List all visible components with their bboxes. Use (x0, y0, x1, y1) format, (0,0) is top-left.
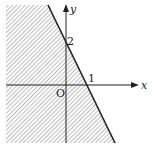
x-intercept-label: 1 (88, 72, 95, 85)
y-intercept-label: 2 (67, 35, 74, 48)
y-axis-arrow-icon (63, 4, 69, 12)
x-axis-arrow-icon (131, 82, 139, 88)
y-axis-label: y (69, 3, 77, 16)
shaded-region (6, 5, 115, 143)
origin-label: O (56, 87, 65, 100)
coordinate-diagram: x y O 1 2 (0, 0, 153, 151)
x-axis-label: x (141, 79, 148, 92)
